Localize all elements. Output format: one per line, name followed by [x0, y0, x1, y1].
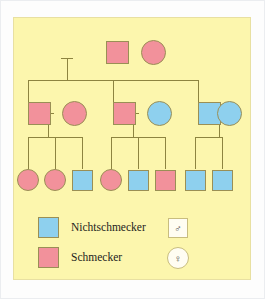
individual-II-1[interactable]	[28, 102, 51, 125]
individual-I-1[interactable]	[106, 41, 129, 64]
sibship-drop-b-2	[138, 137, 139, 169]
individual-III-3[interactable]	[72, 170, 93, 191]
individual-I-2[interactable]	[141, 40, 166, 65]
pedigree-panel: Nichtschmecker Schmecker ♂ ♀	[13, 17, 251, 280]
pedigree-figure: Nichtschmecker Schmecker ♂ ♀	[0, 0, 265, 299]
sibship-drop-b-1	[111, 137, 112, 169]
legend-label-nichtschmecker: Nichtschmecker	[71, 217, 146, 238]
sibship-bar-c	[195, 137, 222, 138]
individual-III-4[interactable]	[100, 169, 122, 191]
individual-III-6[interactable]	[155, 170, 176, 191]
sibship-drop-gen2-3	[198, 80, 199, 102]
sibship-drop-c-1	[195, 137, 196, 169]
descent-line-gen1	[67, 58, 68, 80]
individual-III-7[interactable]	[185, 170, 206, 191]
female-symbol-icon: ♀	[167, 247, 189, 269]
sibship-drop-b-3	[165, 137, 166, 169]
individual-III-1[interactable]	[17, 169, 39, 191]
sibship-drop-a-3	[82, 137, 83, 169]
male-symbol-icon: ♂	[168, 218, 188, 238]
sibship-drop-a-2	[55, 137, 56, 169]
sibship-drop-gen2-1	[28, 80, 29, 102]
legend: Nichtschmecker Schmecker ♂ ♀	[14, 18, 250, 279]
sibship-drop-a-1	[28, 137, 29, 169]
individual-III-8[interactable]	[212, 170, 233, 191]
sibship-drop-gen2-2	[113, 80, 114, 102]
individual-II-3[interactable]	[113, 102, 136, 125]
legend-swatch-nichtschmecker	[38, 217, 59, 238]
individual-III-2[interactable]	[44, 169, 66, 191]
individual-II-2[interactable]	[62, 101, 87, 126]
individual-II-4[interactable]	[147, 101, 172, 126]
sibship-drop-c-2	[222, 137, 223, 169]
individual-II-6[interactable]	[217, 101, 242, 126]
individual-III-5[interactable]	[128, 170, 149, 191]
legend-label-schmecker: Schmecker	[71, 247, 122, 268]
legend-swatch-schmecker	[38, 247, 59, 268]
